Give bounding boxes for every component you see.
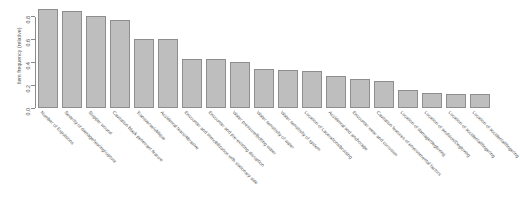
x-tick-label: Location of accidental/fingering <box>448 110 497 159</box>
bar <box>254 69 273 108</box>
bar <box>182 59 201 108</box>
x-tick-label: Accidental tears/Abrasive <box>160 110 201 151</box>
y-axis-title: Item frequency (relative) <box>12 2 26 110</box>
x-tick-label: Water pressure/Bolting water <box>232 110 278 156</box>
x-tick-label: Location of Lacerations/bruising <box>304 110 354 160</box>
bar <box>350 79 369 108</box>
x-tick-label: Stopper wound <box>88 110 114 136</box>
plot-area <box>36 4 492 108</box>
x-tick-label: Location of damage/degloving <box>400 110 447 157</box>
x-tick-label: Encounter wear and corrosion <box>352 110 399 157</box>
bar <box>158 39 177 108</box>
y-tick-label: 0.2 <box>25 85 31 109</box>
y-tick-mark <box>31 85 35 86</box>
y-tick-mark <box>31 16 35 17</box>
bar <box>230 62 249 108</box>
x-tick-label: Location of avulsion/Degloving <box>424 110 472 158</box>
bar <box>302 71 321 108</box>
y-tick-label: 0.0 <box>25 108 31 132</box>
bar <box>86 16 105 108</box>
bar <box>446 94 465 108</box>
bar <box>470 94 489 108</box>
x-tick-label: Cavitation black penetrant feature <box>112 110 165 163</box>
x-tick-label: Severity of damage/tearing/rupture <box>64 110 118 164</box>
x-axis-labels: Number of ExpulsionsSeverity of damage/t… <box>36 108 492 212</box>
x-tick-label: Accidental and anchorage <box>328 110 369 151</box>
bar <box>278 70 297 108</box>
y-tick-label: 0.8 <box>25 16 31 40</box>
bar <box>326 76 345 108</box>
bar <box>398 90 417 108</box>
y-tick-label: 0.4 <box>25 62 31 86</box>
x-tick-label: Location of accidental/fingering <box>472 110 520 159</box>
bar <box>134 39 153 108</box>
bar <box>38 9 57 108</box>
x-tick-label: Water sensitivity of system <box>280 110 322 152</box>
y-tick-mark <box>31 108 35 109</box>
y-tick-mark <box>31 39 35 40</box>
bar <box>374 81 393 108</box>
bar <box>206 59 225 108</box>
bar <box>110 20 129 108</box>
bar <box>62 11 81 108</box>
y-tick-label: 0.6 <box>25 39 31 63</box>
y-tick-mark <box>31 62 35 63</box>
bar <box>422 93 441 108</box>
